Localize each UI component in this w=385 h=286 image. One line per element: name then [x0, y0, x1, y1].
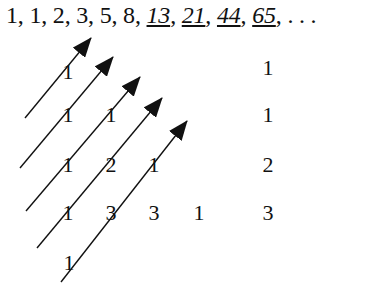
triangle-entry: 1 — [191, 202, 207, 224]
triangle-entry: 1 — [146, 154, 162, 176]
diagonal-sum: 1 — [260, 57, 276, 79]
triangle-entry: 1 — [103, 104, 119, 126]
triangle-entry: 1 — [61, 252, 77, 274]
diagonal-sum: 2 — [260, 154, 276, 176]
triangle-entry: 1 — [60, 104, 76, 126]
triangle-entry: 3 — [103, 202, 119, 224]
triangle-entry: 3 — [146, 202, 162, 224]
arrow-diagonal-4 — [37, 98, 162, 248]
diagonal-sum: 1 — [260, 104, 276, 126]
arrow-diagonal-5 — [61, 121, 187, 282]
triangle-entry: 1 — [60, 61, 76, 83]
triangle-entry: 1 — [60, 154, 76, 176]
arrow-diagonal-1 — [25, 38, 91, 118]
diagonal-sum: 3 — [260, 202, 276, 224]
triangle-entry: 2 — [103, 154, 119, 176]
diagonal-arrows — [0, 0, 385, 286]
triangle-entry: 1 — [60, 202, 76, 224]
